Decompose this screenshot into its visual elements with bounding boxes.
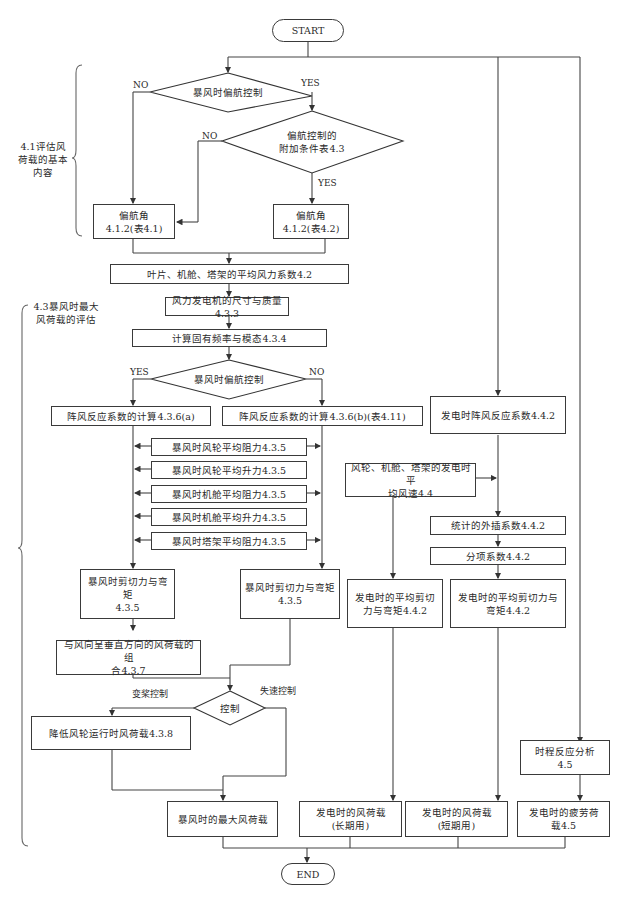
box-generating-gust-coefficient: 发电时阵风反应系数4.4.2: [430, 396, 566, 434]
box-extrapolation-coefficient: 统计的外插系数4.4.2: [430, 516, 566, 535]
box-partial-coefficient: 分项系数4.4.2: [430, 547, 566, 565]
box-yaw-angle-1: 偏航角 4.1.2(表4.1): [93, 204, 175, 239]
branch-yes-3: YES: [130, 367, 149, 378]
decision-control: 控制: [206, 701, 254, 715]
box-tower-mean-drag: 暴风时塔架平均阻力4.3.5: [151, 532, 307, 550]
end-label: END: [297, 868, 320, 881]
box-gust-coefficient-b: 阵风反应系数的计算4.3.6(b)(表4.11): [222, 406, 423, 426]
box-mean-force-coefficient: 叶片、机舱、塔架的平均风力系数4.2: [110, 264, 349, 284]
branch-no-1: NO: [133, 80, 148, 91]
box-rotor-mean-drag: 暴风时风轮平均阻力4.3.5: [151, 438, 307, 456]
decision-yaw-control-1: 暴风时偏航控制: [170, 85, 286, 99]
branch-pitch-control: 变桨控制: [132, 689, 168, 700]
branch-no-2: NO: [202, 131, 217, 142]
decision-yaw-control-2: 暴风时偏航控制: [170, 372, 288, 386]
box-generating-mean-wind-speed: 风轮、机舱、塔架的发电时平 均风速4.4: [345, 463, 476, 497]
section-label-storm: 4.3暴风时最大 风荷载的评估: [30, 300, 102, 326]
box-storm-shear-moment-a: 暴风时剪切力与弯矩 4.3.5: [80, 569, 175, 619]
box-reduce-rotor-load: 降低风轮运行时风荷载4.3.8: [31, 716, 191, 750]
branch-yes-1: YES: [301, 78, 320, 89]
branch-no-3: NO: [309, 367, 324, 378]
box-fatigue-load: 发电时的疲劳荷 载4.5: [517, 801, 610, 837]
box-storm-shear-moment-b: 暴风时剪切力与弯矩 4.3.5: [240, 569, 340, 619]
box-natural-frequency: 计算固有频率与模态4.3.4: [132, 329, 327, 347]
end-terminal: END: [281, 863, 335, 885]
box-nacelle-mean-drag: 暴风时机舱平均阻力4.3.5: [151, 485, 307, 503]
box-time-history-analysis: 时程反应分析 4.5: [520, 740, 610, 775]
start-label: START: [292, 24, 325, 37]
box-nacelle-mean-lift: 暴风时机舱平均升力4.3.5: [151, 508, 307, 526]
box-rotor-mean-lift: 暴风时风轮平均升力4.3.5: [151, 461, 307, 479]
box-size-mass: 风力发电机的尺寸与质量4.3.3: [165, 297, 289, 316]
branch-stall-control: 失速控制: [260, 686, 296, 697]
box-gust-coefficient-a: 阵风反应系数的计算4.3.6(a): [51, 406, 211, 426]
box-generating-shear-moment-1: 发电时的平均剪切 力与弯矩4.4.2: [347, 579, 443, 628]
decision-yaw-extra-condition: 偏航控制的 附加条件表4.3: [252, 128, 372, 156]
branch-yes-2: YES: [318, 178, 337, 189]
box-max-storm-load: 暴风时的最大风荷载: [167, 801, 278, 837]
box-generating-load-short-term: 发电时的风荷载 (短期用): [405, 801, 508, 837]
section-label-basic: 4.1评估风 荷载的基本 内容: [14, 140, 72, 179]
start-terminal: START: [272, 19, 344, 42]
box-generating-shear-moment-2: 发电时的平均剪切力与 弯矩4.4.2: [450, 579, 566, 628]
box-perpendicular-combination: 与风向呈垂直方向的风荷载的组 合4.3.7: [56, 640, 201, 675]
box-generating-load-long-term: 发电时的风荷载 (长期用): [299, 801, 402, 837]
box-yaw-angle-2: 偏航角 4.1.2(表4.2): [273, 204, 349, 239]
flowchart-canvas: START END 4.1评估风 荷载的基本 内容 4.3暴风时最大 风荷载的评…: [0, 0, 618, 901]
